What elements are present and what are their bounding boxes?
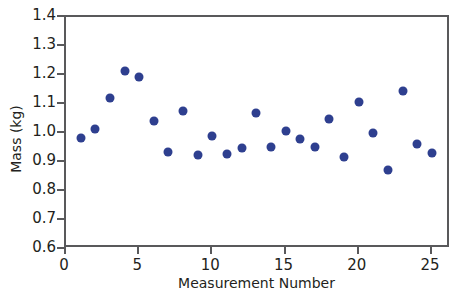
- x-axis-tick: [210, 247, 212, 254]
- data-point: [149, 117, 158, 126]
- y-axis-tick: [57, 218, 64, 220]
- data-point: [340, 153, 349, 162]
- data-point: [369, 128, 378, 137]
- x-axis-tick: [64, 247, 66, 254]
- y-axis-tick: [57, 73, 64, 75]
- data-point: [354, 97, 363, 106]
- data-point: [281, 126, 290, 135]
- data-point: [384, 165, 393, 174]
- data-point: [208, 131, 217, 140]
- x-axis-tick-label: 5: [132, 256, 142, 274]
- y-axis-tick: [57, 44, 64, 46]
- data-point: [179, 106, 188, 115]
- data-point: [193, 150, 202, 159]
- y-axis-tick-label: 1.4: [0, 6, 56, 24]
- data-point: [223, 150, 232, 159]
- y-axis-tick: [57, 131, 64, 133]
- x-axis-tick: [430, 247, 432, 254]
- x-axis-tick: [137, 247, 139, 254]
- y-axis-tick: [57, 15, 64, 17]
- x-axis-tick: [284, 247, 286, 254]
- data-point: [76, 133, 85, 142]
- y-axis-tick: [57, 247, 64, 249]
- data-point: [237, 143, 246, 152]
- scatter-chart-figure: 0.60.70.80.91.01.11.21.31.4 0510152025 M…: [0, 0, 464, 292]
- y-axis-tick: [57, 160, 64, 162]
- data-points-layer: [66, 17, 447, 245]
- x-axis-tick: [357, 247, 359, 254]
- data-point: [135, 72, 144, 81]
- data-point: [325, 115, 334, 124]
- x-axis-tick-label: 25: [420, 256, 439, 274]
- data-point: [266, 142, 275, 151]
- x-axis-title: Measurement Number: [64, 275, 449, 291]
- y-axis-tick-label: 1.3: [0, 35, 56, 53]
- data-point: [398, 86, 407, 95]
- x-axis-tick-label: 15: [274, 256, 293, 274]
- y-axis-tick-label: 0.6: [0, 238, 56, 256]
- data-point: [105, 94, 114, 103]
- y-axis-tick: [57, 102, 64, 104]
- data-point: [120, 67, 129, 76]
- x-axis-tick-label: 20: [347, 256, 366, 274]
- data-point: [91, 124, 100, 133]
- y-axis-tick-label: 0.7: [0, 209, 56, 227]
- x-axis-tick-label: 10: [201, 256, 220, 274]
- x-axis-tick-label: 0: [59, 256, 69, 274]
- data-point: [252, 109, 261, 118]
- data-point: [296, 135, 305, 144]
- data-point: [413, 140, 422, 149]
- plot-area: [64, 15, 449, 247]
- data-point: [427, 149, 436, 158]
- data-point: [164, 148, 173, 157]
- y-axis-tick: [57, 189, 64, 191]
- data-point: [310, 142, 319, 151]
- y-axis-title: Mass (kg): [8, 79, 24, 199]
